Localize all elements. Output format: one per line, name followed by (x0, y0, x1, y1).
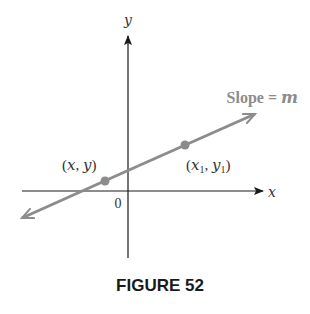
x-axis-label: x (268, 184, 276, 200)
point-x-y (101, 177, 110, 186)
slope-label: Slope = m (227, 88, 298, 107)
origin-label: 0 (115, 196, 122, 211)
point-x1-y1 (181, 141, 190, 150)
slope-figure: y x 0 Slope = m (x, y) (x1, y1) FIGURE 5… (0, 0, 310, 314)
y-axis-label: y (123, 12, 133, 28)
point-label-x-y: (x, y) (62, 156, 96, 174)
point-label-x1-y1: (x1, y1) (186, 156, 230, 175)
figure-caption: FIGURE 52 (116, 276, 204, 295)
